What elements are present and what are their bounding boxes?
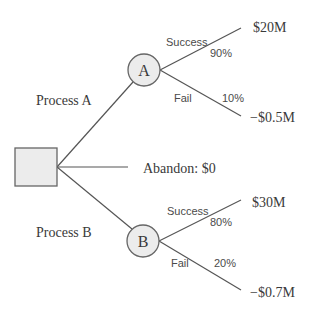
outcome-b-fail-probability: 20% — [214, 257, 236, 269]
outcome-a-success-label: Success — [166, 36, 208, 48]
outcome-b-success-payoff: $30M — [252, 195, 286, 210]
outcome-a-success-payoff: $20M — [253, 20, 287, 35]
outcome-a-fail-payoff: −$0.5M — [250, 110, 295, 125]
branch-label-process-a: Process A — [36, 93, 93, 108]
outcome-b-success-probability: 80% — [210, 216, 232, 228]
outcome-a-fail-label: Fail — [174, 92, 192, 104]
outcome-a-fail-probability: 10% — [222, 92, 244, 104]
outcome-a-success-probability: 90% — [210, 47, 232, 59]
decision-node — [15, 148, 57, 186]
edge-process-b — [57, 167, 132, 229]
chance-node-b-label: B — [138, 233, 149, 250]
chance-node-b: B — [127, 225, 159, 257]
decision-tree-diagram: A B Process A Abandon: $0 Process B Succ… — [0, 0, 309, 313]
branch-label-abandon: Abandon: $0 — [143, 161, 216, 176]
outcome-b-fail-payoff: −$0.7M — [250, 285, 295, 300]
outcome-b-fail-label: Fail — [171, 257, 189, 269]
chance-node-a: A — [128, 54, 160, 86]
branch-label-process-b: Process B — [36, 225, 92, 240]
chance-node-a-label: A — [138, 62, 150, 79]
outcome-b-success-label: Success — [167, 205, 209, 217]
